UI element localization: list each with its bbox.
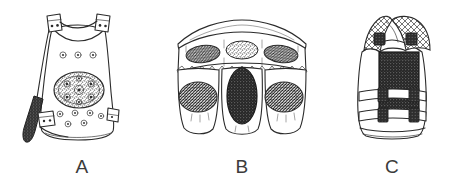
- figure-plate-svg: A: [0, 0, 469, 182]
- figure-b-label: B: [235, 156, 248, 177]
- figure-a-side-buckle-right: [107, 108, 119, 122]
- figure-c-webbing-buckle-tab-2: [409, 88, 419, 102]
- figure-plate: A: [0, 0, 469, 182]
- figure-c-webbing-buckle-tab-3: [378, 108, 388, 122]
- figure-c-shoulder-buckle-tab-left: [374, 33, 385, 45]
- figure-c-shoulder-buckle-tab-right: [406, 33, 417, 45]
- figure-c-webbing-buckle-tab-1: [378, 88, 388, 102]
- figure-a-shoulder-buckle-right: [95, 14, 110, 32]
- figure-a-shoulder-buckle-left: [47, 14, 62, 32]
- figure-c-label: C: [385, 156, 399, 177]
- figure-b-dark-center-plaque: [227, 68, 257, 124]
- figure-a-central-rosette-boss: [54, 72, 104, 108]
- figure-a-label: A: [75, 156, 88, 177]
- figure-c-webbing-buckle-tab-4: [409, 108, 419, 122]
